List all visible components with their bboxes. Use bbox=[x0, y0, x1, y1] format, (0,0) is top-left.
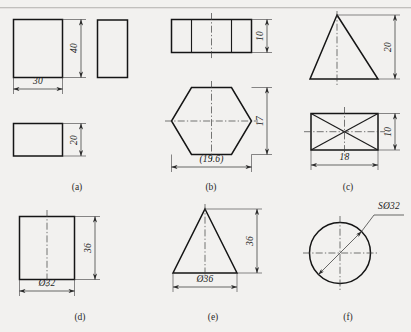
panel-e-height-dim-text: 36 bbox=[245, 236, 255, 247]
panel-c-depth-dim-text: 10 bbox=[383, 127, 393, 137]
panel-a-group: 40 30 20 (a) bbox=[14, 20, 128, 194]
panel-d-diameter-dim-text: Ø32 bbox=[38, 278, 56, 288]
panel-label-e: (e) bbox=[208, 312, 219, 323]
panel-b-acrossflats-dim-text: 17 bbox=[255, 115, 265, 126]
panel-c-height-dim-text: 20 bbox=[383, 42, 393, 52]
panel-d-group: 36 Ø32 (d) bbox=[20, 210, 101, 323]
panel-label-c: (c) bbox=[343, 182, 354, 193]
panel-d-height-dim-text: 36 bbox=[83, 243, 93, 254]
panel-f-group: SØ32 (f) bbox=[303, 201, 404, 323]
panel-c-width-dim-text: 18 bbox=[340, 152, 350, 162]
technical-drawing-canvas: 40 30 20 (a) 10 bbox=[0, 0, 411, 332]
panel-f-sphere-diameter-text: SØ32 bbox=[378, 201, 400, 211]
panel-label-f: (f) bbox=[343, 312, 353, 323]
panel-e-diameter-dim-text: Ø36 bbox=[196, 274, 214, 284]
panel-a-depth-dim-text: 20 bbox=[69, 135, 79, 145]
panel-label-b: (b) bbox=[205, 182, 216, 193]
panel-a-top-view-rect bbox=[14, 124, 63, 157]
panel-e-group: 36 Ø36 (e) bbox=[173, 204, 262, 323]
panel-a-width-dim-text: 30 bbox=[32, 76, 43, 86]
panel-b-acrosscorners-dim-text: (19.6) bbox=[199, 154, 223, 165]
panel-b-group: 10 17 (19.6) (b) bbox=[165, 13, 272, 193]
panel-label-d: (d) bbox=[74, 312, 85, 323]
panel-b-height-dim-text: 10 bbox=[255, 31, 265, 41]
panel-c-group: 20 10 18 (c) bbox=[304, 11, 400, 193]
panel-a-front-view-rect bbox=[14, 20, 63, 78]
drawing-sheet: 40 30 20 (a) 10 bbox=[0, 0, 411, 332]
panel-f-leader-line bbox=[362, 215, 375, 232]
panel-a-side-view-rect bbox=[98, 20, 128, 78]
panel-label-a: (a) bbox=[72, 182, 83, 193]
panel-a-height-dim-text: 40 bbox=[69, 43, 79, 53]
panel-c-triangle-front-view bbox=[310, 15, 378, 79]
